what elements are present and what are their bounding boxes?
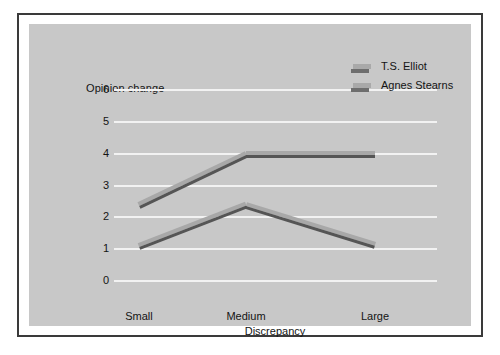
legend-label: T.S. Elliot — [381, 60, 427, 72]
legend-swatch-icon — [351, 83, 371, 92]
plot-background: Opinion change 0123456 SmallMediumLarge … — [29, 24, 471, 326]
y-axis-tick-label: 2 — [95, 210, 109, 222]
line-segment — [246, 151, 375, 158]
x-axis-tick-label: Small — [125, 310, 153, 322]
line-segment — [137, 151, 247, 208]
y-axis-tick-label: 6 — [95, 83, 109, 95]
x-axis-tick-label: Large — [361, 310, 389, 322]
x-axis-title: Discrepancy — [245, 325, 306, 337]
y-axis-tick-label: 1 — [95, 242, 109, 254]
x-axis-tick-label: Medium — [226, 310, 265, 322]
line-segment — [245, 202, 376, 248]
chart-frame: Opinion change 0123456 SmallMediumLarge … — [17, 13, 483, 337]
legend-label: Agnes Stearns — [381, 79, 453, 91]
y-axis-tick-label: 3 — [95, 179, 109, 191]
legend-swatch-icon — [351, 64, 371, 73]
gridline — [114, 121, 437, 123]
y-axis-tick-label: 5 — [95, 115, 109, 127]
gridline — [114, 248, 437, 250]
line-segment — [138, 202, 248, 250]
gridline — [114, 280, 437, 282]
y-axis-tick-label: 0 — [95, 274, 109, 286]
gridline — [114, 185, 437, 187]
y-axis-tick-label: 4 — [95, 147, 109, 159]
